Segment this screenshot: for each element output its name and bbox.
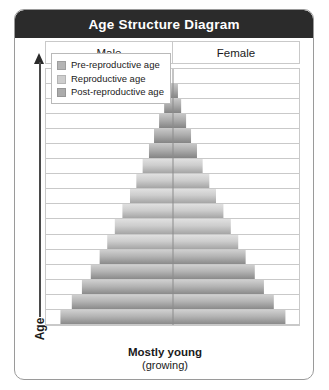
legend-label-rep: Reproductive age bbox=[71, 73, 145, 85]
page-title: Age Structure Diagram bbox=[88, 17, 239, 32]
legend-swatch-pre-icon bbox=[57, 61, 66, 70]
screenshot-root: Age Structure Diagram Age Male Female Pr… bbox=[0, 0, 329, 390]
column-header-female: Female bbox=[172, 41, 300, 64]
legend-item-pre: Pre-reproductive age bbox=[57, 59, 165, 71]
caption-sub: (growing) bbox=[15, 359, 314, 371]
legend-swatch-post-icon bbox=[57, 88, 66, 97]
caption: Mostly young (growing) bbox=[15, 346, 314, 371]
legend: Pre-reproductive age Reproductive age Po… bbox=[51, 53, 171, 104]
axis-line bbox=[39, 62, 41, 317]
legend-swatch-rep-icon bbox=[57, 75, 66, 84]
plot-area: Male Female Pre-reproductive age Reprodu… bbox=[45, 41, 300, 341]
center-divider bbox=[172, 69, 173, 325]
caption-main: Mostly young bbox=[15, 346, 314, 358]
legend-item-post: Post-reproductive age bbox=[57, 86, 165, 98]
legend-label-post: Post-reproductive age bbox=[71, 86, 164, 98]
card-header: Age Structure Diagram bbox=[15, 10, 313, 38]
legend-label-pre: Pre-reproductive age bbox=[71, 59, 160, 71]
legend-item-rep: Reproductive age bbox=[57, 73, 165, 85]
age-structure-card: Age Structure Diagram Age Male Female Pr… bbox=[14, 9, 314, 380]
pyramid-grid bbox=[45, 68, 300, 326]
